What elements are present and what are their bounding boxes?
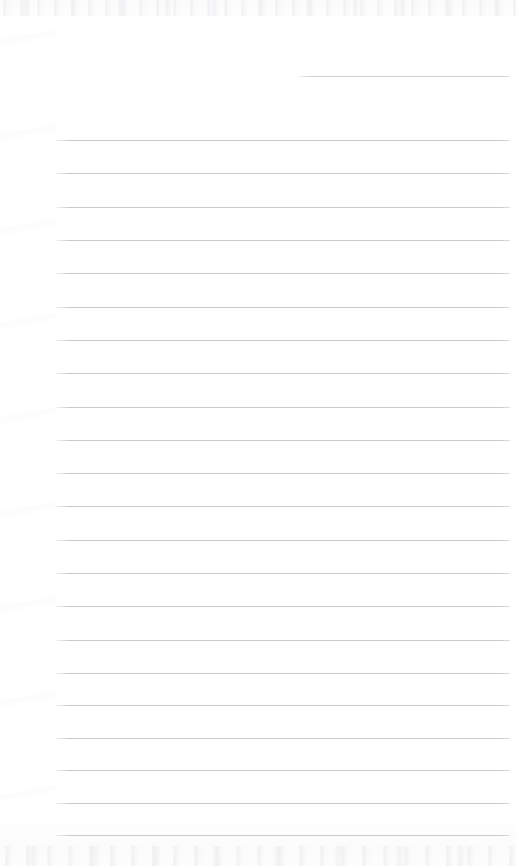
scanned-page [0,0,516,866]
scan-noise-bottom-band [0,846,516,866]
ruled-line [56,207,510,208]
left-margin-texture [0,0,56,866]
ruled-line [56,606,510,607]
ruled-line [56,540,510,541]
ruled-line [56,373,510,374]
ruled-line [298,76,510,77]
ruled-line [56,273,510,274]
ruled-line [56,803,510,804]
ruled-line [56,705,510,706]
ruled-line [56,573,510,574]
ruled-line [56,240,510,241]
ruled-line [56,440,510,441]
ruled-line [56,407,510,408]
scan-noise-top-band [0,0,516,16]
paper-surface [0,0,516,866]
ruled-line [56,473,510,474]
ruled-line [56,738,510,739]
ruled-line [56,340,510,341]
ruled-line [56,640,510,641]
ruled-line [56,835,510,836]
ruled-line [56,140,510,141]
ruled-line [56,770,510,771]
ruled-line [56,307,510,308]
ruled-line [56,673,510,674]
ruled-line [56,173,510,174]
ruled-line [56,506,510,507]
